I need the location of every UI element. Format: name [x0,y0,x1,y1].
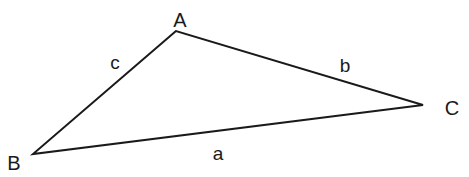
vertex-label-a: A [173,9,187,31]
vertex-label-b: B [7,152,20,174]
side-label-c: c [110,52,120,73]
triangle-diagram: A B C a b c [0,0,469,177]
vertex-label-c: C [445,97,459,119]
side-label-a: a [213,143,224,164]
side-label-b: b [340,55,351,76]
triangle-abc [33,31,423,154]
